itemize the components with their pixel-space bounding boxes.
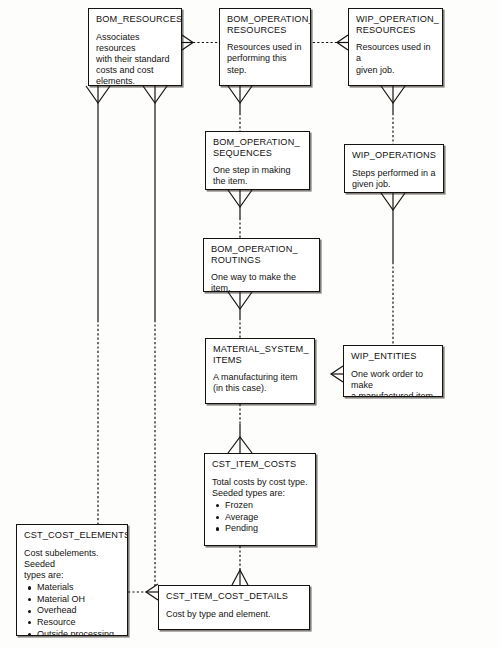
entity-description: One step in making the item. [213, 165, 303, 187]
connector-wipoperationresources-bomoperationresources [311, 35, 348, 50]
entity-description: Steps performed in a given job. [352, 168, 437, 190]
diagram-canvas: BOM_RESOURCES Associates resources with … [0, 0, 500, 648]
entity-name: CST_ITEM_COST_DETAILS [166, 591, 303, 602]
entity-bom-resources[interactable]: BOM_RESOURCES Associates resources with … [88, 8, 182, 86]
entity-name: BOM_OPERATION_ RESOURCES [227, 14, 304, 35]
entity-description: Total costs by cost type. Seeded types a… [212, 477, 309, 499]
connector-bomoperationsequences-bomoperationroutings [228, 190, 252, 238]
entity-item-list: Frozen Average Pending [212, 500, 309, 535]
entity-description: One work order to make a manufactured it… [351, 369, 436, 397]
list-item: Frozen [225, 500, 309, 512]
connector-wipoperations-wipentities [381, 193, 405, 345]
entity-name: WIP_OPERATIONS [352, 150, 437, 161]
entity-name: MATERIAL_SYSTEM_ ITEMS [213, 344, 308, 365]
entity-wip-entities[interactable]: WIP_ENTITIES One work order to make a ma… [343, 345, 443, 397]
list-item: Overhead [37, 605, 121, 617]
list-item: Resource [37, 617, 121, 629]
connector-cstcostelements-cstitemcostdetails [128, 584, 158, 600]
entity-name: BOM_OPERATION_ SEQUENCES [213, 137, 303, 158]
list-item: Materials [37, 582, 121, 594]
entity-name: CST_ITEM_COSTS [212, 459, 309, 470]
entity-cst-item-cost-details[interactable]: CST_ITEM_COST_DETAILS Cost by type and e… [158, 585, 310, 630]
entity-description: One way to make the item. [211, 272, 313, 292]
entity-bom-operation-sequences[interactable]: BOM_OPERATION_ SEQUENCES One step in mak… [205, 131, 310, 190]
entity-wip-operation-resources[interactable]: WIP_OPERATION_ RESOURCES Resources used … [348, 8, 443, 86]
connector-bomoperationresources-bomoperationsequences [228, 86, 252, 131]
entity-material-system-items[interactable]: MATERIAL_SYSTEM_ ITEMS A manufacturing i… [205, 338, 315, 404]
entity-wip-operations[interactable]: WIP_OPERATIONS Steps performed in a give… [344, 144, 444, 193]
entity-description: Cost subelements. Seeded types are: [24, 548, 121, 582]
entity-cst-item-costs[interactable]: CST_ITEM_COSTS Total costs by cost type.… [204, 453, 316, 546]
entity-name: WIP_ENTITIES [351, 351, 436, 362]
connector-materialsystemitems-cstitemcosts [228, 404, 252, 453]
entity-cst-cost-elements[interactable]: CST_COST_ELEMENTS Cost subelements. Seed… [16, 524, 128, 636]
list-item: Material OH [37, 594, 121, 606]
entity-name: BOM_OPERATION_ ROUTINGS [211, 244, 313, 265]
list-item: Average [225, 512, 309, 524]
connector-wipoperationresources-wipoperations [381, 86, 405, 144]
entity-description: Associates resources with their standard… [96, 32, 175, 86]
entity-bom-operation-resources[interactable]: BOM_OPERATION_ RESOURCES Resources used … [219, 8, 311, 86]
connector-bomresources-bomoperationresources [182, 35, 219, 50]
list-item: Pending [225, 523, 309, 535]
connector-bomoperationroutings-materialsystemitems [228, 292, 252, 338]
entity-description: A manufacturing item (in this case). [213, 372, 308, 394]
entity-name: WIP_OPERATION_ RESOURCES [356, 14, 436, 35]
entity-name: BOM_RESOURCES [96, 14, 175, 25]
entity-description: Resources used in a given job. [356, 42, 436, 76]
connector-bomresources-cstcostelements [86, 86, 110, 524]
entity-description: Cost by type and element. [166, 609, 303, 620]
connector-cstitemcosts-cstitemcostdetails [232, 546, 248, 585]
connector-bomresources-cstitemcostdetails [143, 86, 167, 586]
list-item: Outside processing [37, 629, 121, 636]
entity-bom-operation-routings[interactable]: BOM_OPERATION_ ROUTINGS One way to make … [203, 238, 320, 292]
entity-name: CST_COST_ELEMENTS [24, 530, 121, 541]
entity-description: Resources used in performing this step. [227, 42, 304, 76]
connector-materialsystemitems-wipentities [331, 366, 343, 382]
entity-item-list: Materials Material OH Overhead Resource … [24, 582, 121, 636]
